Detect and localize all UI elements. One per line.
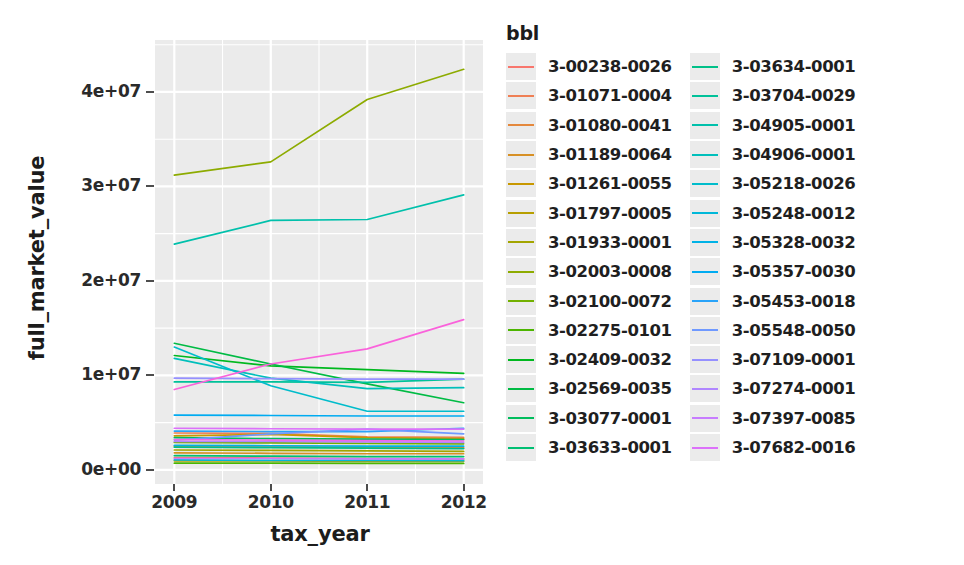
legend-line-icon bbox=[508, 447, 534, 449]
legend-key-swatch bbox=[506, 317, 536, 344]
legend-item-label: 3-05218-0026 bbox=[732, 174, 856, 193]
legend-key-swatch bbox=[690, 229, 720, 256]
legend-item[interactable]: 3-02100-0072 bbox=[500, 286, 672, 315]
legend-item-label: 3-05453-0018 bbox=[732, 292, 856, 311]
legend-item[interactable]: 3-07397-0085 bbox=[684, 404, 856, 433]
legend-line-icon bbox=[692, 359, 718, 361]
legend-key-swatch bbox=[690, 82, 720, 109]
legend-item[interactable]: 3-03634-0001 bbox=[684, 52, 856, 81]
legend-line-icon bbox=[692, 212, 718, 214]
legend-key-swatch bbox=[690, 112, 720, 139]
y-tick-mark bbox=[146, 374, 154, 376]
legend-item[interactable]: 3-05548-0050 bbox=[684, 316, 856, 345]
x-tick-mark bbox=[270, 484, 272, 491]
legend-item[interactable]: 3-03633-0001 bbox=[500, 433, 672, 462]
legend-item-label: 3-03633-0001 bbox=[548, 438, 672, 457]
legend-key-swatch bbox=[506, 112, 536, 139]
legend-key-swatch bbox=[506, 141, 536, 168]
legend-item[interactable]: 3-01189-0064 bbox=[500, 140, 672, 169]
legend-line-icon bbox=[508, 212, 534, 214]
legend-key-swatch bbox=[506, 288, 536, 315]
legend-item[interactable]: 3-05328-0032 bbox=[684, 228, 856, 257]
legend-key-swatch bbox=[690, 170, 720, 197]
y-tick-label: 0e+00 bbox=[51, 459, 141, 479]
legend-item-label: 3-07109-0001 bbox=[732, 350, 856, 369]
legend-item-label: 3-02569-0035 bbox=[548, 379, 672, 398]
legend-line-icon bbox=[508, 124, 534, 126]
legend-key-swatch bbox=[506, 375, 536, 402]
legend-key-swatch bbox=[690, 288, 720, 315]
legend-item[interactable]: 3-04906-0001 bbox=[684, 140, 856, 169]
legend-item[interactable]: 3-01797-0005 bbox=[500, 198, 672, 227]
series-line bbox=[174, 445, 463, 446]
plot-region: full_market_value 0e+001e+072e+073e+074e… bbox=[0, 0, 500, 565]
legend-item-label: 3-07274-0001 bbox=[732, 379, 856, 398]
legend-title: bbl bbox=[506, 22, 539, 44]
legend-key-swatch bbox=[506, 258, 536, 285]
legend-line-icon bbox=[692, 271, 718, 273]
legend-item[interactable]: 3-05248-0012 bbox=[684, 198, 856, 227]
legend-item[interactable]: 3-03077-0001 bbox=[500, 404, 672, 433]
legend-item[interactable]: 3-07274-0001 bbox=[684, 374, 856, 403]
legend-item[interactable]: 3-03704-0029 bbox=[684, 81, 856, 110]
legend-line-icon bbox=[508, 95, 534, 97]
legend-key-swatch bbox=[690, 141, 720, 168]
series-line bbox=[174, 450, 463, 451]
legend-key-swatch bbox=[690, 346, 720, 373]
legend-line-icon bbox=[508, 154, 534, 156]
legend-columns: 3-00238-00263-01071-00043-01080-00413-01… bbox=[500, 52, 855, 462]
legend-line-icon bbox=[508, 66, 534, 68]
legend-item[interactable]: 3-02275-0101 bbox=[500, 316, 672, 345]
legend: bbl 3-00238-00263-01071-00043-01080-0041… bbox=[500, 22, 964, 522]
legend-line-icon bbox=[692, 154, 718, 156]
legend-item[interactable]: 3-02409-0032 bbox=[500, 345, 672, 374]
legend-item-label: 3-05248-0012 bbox=[732, 204, 856, 223]
legend-key-swatch bbox=[690, 53, 720, 80]
series-line bbox=[174, 453, 463, 454]
legend-item[interactable]: 3-05453-0018 bbox=[684, 286, 856, 315]
y-tick-mark bbox=[146, 280, 154, 282]
legend-item-label: 3-04905-0001 bbox=[732, 116, 856, 135]
legend-line-icon bbox=[508, 388, 534, 390]
legend-line-icon bbox=[508, 300, 534, 302]
legend-item-label: 3-04906-0001 bbox=[732, 145, 856, 164]
legend-column: 3-03634-00013-03704-00293-04905-00013-04… bbox=[684, 52, 856, 462]
legend-item[interactable]: 3-02003-0008 bbox=[500, 257, 672, 286]
legend-key-swatch bbox=[506, 200, 536, 227]
legend-key-swatch bbox=[506, 82, 536, 109]
x-tick-mark bbox=[463, 484, 465, 491]
legend-item[interactable]: 3-04905-0001 bbox=[684, 111, 856, 140]
legend-item[interactable]: 3-05218-0026 bbox=[684, 169, 856, 198]
y-tick-mark bbox=[146, 469, 154, 471]
y-tick-labels: 0e+001e+072e+073e+074e+07 bbox=[45, 0, 141, 565]
legend-item-label: 3-00238-0026 bbox=[548, 57, 672, 76]
legend-line-icon bbox=[508, 329, 534, 331]
legend-item-label: 3-02100-0072 bbox=[548, 292, 672, 311]
legend-key-swatch bbox=[506, 434, 536, 461]
x-tick-mark bbox=[173, 484, 175, 491]
legend-item[interactable]: 3-07682-0016 bbox=[684, 433, 856, 462]
legend-item[interactable]: 3-01071-0004 bbox=[500, 81, 672, 110]
plot-panel bbox=[155, 40, 483, 484]
legend-item-label: 3-02003-0008 bbox=[548, 262, 672, 281]
legend-item-label: 3-02409-0032 bbox=[548, 350, 672, 369]
legend-item-label: 3-07682-0016 bbox=[732, 438, 856, 457]
series-line bbox=[174, 428, 463, 429]
legend-item[interactable]: 3-01933-0001 bbox=[500, 228, 672, 257]
legend-item[interactable]: 3-07109-0001 bbox=[684, 345, 856, 374]
x-tick-label: 2011 bbox=[322, 492, 412, 512]
legend-item[interactable]: 3-00238-0026 bbox=[500, 52, 672, 81]
legend-item[interactable]: 3-01080-0041 bbox=[500, 111, 672, 140]
legend-line-icon bbox=[692, 447, 718, 449]
legend-key-swatch bbox=[690, 317, 720, 344]
legend-line-icon bbox=[692, 388, 718, 390]
y-tick-label: 2e+07 bbox=[51, 270, 141, 290]
legend-item[interactable]: 3-05357-0030 bbox=[684, 257, 856, 286]
legend-line-icon bbox=[692, 300, 718, 302]
legend-item-label: 3-01080-0041 bbox=[548, 116, 672, 135]
legend-column: 3-00238-00263-01071-00043-01080-00413-01… bbox=[500, 52, 672, 462]
legend-line-icon bbox=[692, 66, 718, 68]
legend-line-icon bbox=[692, 417, 718, 419]
legend-item[interactable]: 3-01261-0055 bbox=[500, 169, 672, 198]
legend-item[interactable]: 3-02569-0035 bbox=[500, 374, 672, 403]
